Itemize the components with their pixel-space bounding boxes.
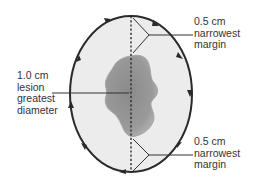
label-line: diameter xyxy=(17,105,58,117)
label-line: margin xyxy=(194,39,240,51)
arrow-icon xyxy=(177,142,182,148)
label-line: 1.0 cm xyxy=(17,70,58,82)
label-line: 0.5 cm xyxy=(194,16,240,28)
bottom-margin-label: 0.5 cm narrowest margin xyxy=(194,136,240,171)
label-line: greatest xyxy=(17,93,58,105)
label-line: 0.5 cm xyxy=(194,136,240,148)
lesion-diameter-label: 1.0 cm lesion greatest diameter xyxy=(17,70,58,116)
label-line: margin xyxy=(194,159,240,171)
top-margin-label: 0.5 cm narrowest margin xyxy=(194,16,240,51)
